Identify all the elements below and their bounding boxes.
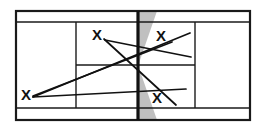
court-svg: X X X X <box>0 0 266 131</box>
player-mark-upper-left: X <box>92 26 102 43</box>
player-mark-upper-right: X <box>156 27 166 44</box>
player-mark-left-baseline: X <box>21 86 31 103</box>
tennis-court-diagram: X X X X <box>0 0 266 131</box>
player-mark-lower-right: X <box>152 89 162 106</box>
